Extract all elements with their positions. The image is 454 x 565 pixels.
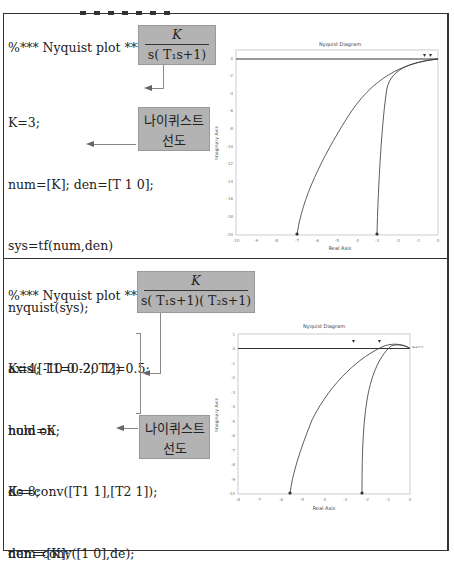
- svg-text:-10: -10: [226, 144, 233, 149]
- svg-text:-7: -7: [295, 238, 299, 243]
- svg-text:Imaginary Axis: Imaginary Axis: [214, 126, 219, 160]
- svg-text:-1: -1: [231, 361, 235, 366]
- section1-comment: %*** Nyquist plot ***: [8, 38, 143, 59]
- formula-numerator: K: [139, 26, 215, 44]
- section2-nyquist-label: 나이퀴스트 선도: [139, 415, 210, 459]
- nyquist-plot-1: Nyquist Diagram 0-2-4-6-8-10-12-14-16-18…: [212, 38, 442, 262]
- formula-denominator: s( T₁s+1): [139, 45, 215, 65]
- svg-text:-4: -4: [322, 497, 326, 502]
- code-line: de=conv([T1 1],[T2 1]);: [8, 482, 209, 503]
- arrow-left-icon: [144, 85, 152, 91]
- arrow-line: [92, 144, 136, 145]
- svg-text:-4: -4: [355, 238, 359, 243]
- svg-text:0: 0: [409, 497, 412, 502]
- svg-text:-1: -1: [416, 238, 420, 243]
- svg-text:-4: -4: [229, 91, 233, 96]
- bracket-tick: [136, 333, 141, 334]
- label-line: 나이퀴스트: [139, 111, 209, 131]
- formula-denominator: s( T₁s+1)( T₂s+1): [138, 291, 254, 311]
- svg-text:-5: -5: [300, 497, 304, 502]
- svg-text:-9: -9: [231, 477, 235, 482]
- svg-text:-14: -14: [226, 179, 233, 184]
- svg-text:-6: -6: [229, 108, 233, 113]
- arrow-line: [150, 88, 164, 89]
- arrow-line: [122, 428, 138, 429]
- svg-text:-8: -8: [231, 462, 235, 467]
- header-marks: [80, 0, 210, 6]
- svg-text:Imaginary Axis: Imaginary Axis: [214, 398, 219, 432]
- formula-numerator: K: [138, 272, 254, 290]
- section1-nyquist-label: 나이퀴스트 선도: [138, 107, 210, 151]
- bracket-tick: [136, 413, 141, 414]
- svg-text:-3: -3: [375, 238, 379, 243]
- svg-text:-6: -6: [231, 433, 235, 438]
- arrow-left-icon: [116, 425, 124, 431]
- svg-text:Nyquist Diagram: Nyquist Diagram: [303, 323, 345, 330]
- svg-text:-12: -12: [226, 161, 233, 166]
- svg-text:-4: -4: [231, 404, 235, 409]
- code-line: sys=tf(num,den): [8, 236, 154, 257]
- svg-text:-18: -18: [226, 214, 233, 219]
- svg-text:-10: -10: [228, 491, 235, 496]
- svg-text:1: 1: [232, 332, 235, 337]
- svg-text:-7: -7: [257, 497, 261, 502]
- section1-transfer-function: K s( T₁s+1): [138, 25, 216, 65]
- arrow-left-icon: [142, 370, 150, 376]
- svg-text:-3: -3: [231, 390, 235, 395]
- svg-text:Real Axis: Real Axis: [329, 245, 352, 251]
- svg-text:-2: -2: [396, 238, 400, 243]
- svg-text:-8: -8: [236, 497, 240, 502]
- plot1-title: Nyquist Diagram: [319, 41, 361, 48]
- svg-text:Real Axis: Real Axis: [313, 505, 336, 511]
- formula-connector-line: [163, 65, 164, 88]
- svg-text:0: 0: [437, 238, 440, 243]
- svg-text:-9: -9: [254, 238, 258, 243]
- label-line: 나이퀴스트: [140, 419, 209, 439]
- label-line: 선도: [139, 131, 209, 151]
- svg-text:0: 0: [232, 346, 235, 351]
- svg-text:-5: -5: [335, 238, 339, 243]
- svg-text:-2: -2: [365, 497, 369, 502]
- svg-text:-10: -10: [233, 238, 240, 243]
- formula-connector-line: [160, 313, 161, 373]
- svg-text:-2: -2: [229, 73, 233, 78]
- svg-text:-1: -1: [386, 497, 390, 502]
- svg-text:-6: -6: [315, 238, 319, 243]
- svg-text:-3: -3: [343, 497, 347, 502]
- arrow-left-icon: [86, 141, 94, 147]
- code-line: K=4; T1=0.2; T2=0.5;: [8, 359, 209, 380]
- svg-text:-20: -20: [226, 232, 233, 237]
- bracket-line: [140, 333, 141, 413]
- svg-text:ω=+∞: ω=+∞: [412, 345, 424, 349]
- nyquist-plot-2: Nyquist Diagram 10-1-2-3-4-5-6-7-8-9-10 …: [212, 320, 442, 544]
- svg-text:-6: -6: [279, 497, 283, 502]
- label-line: 선도: [140, 439, 209, 459]
- svg-text:-8: -8: [274, 238, 278, 243]
- section2-comment: %*** Nyquist plot ***: [8, 286, 143, 307]
- svg-text:-8: -8: [229, 126, 233, 131]
- section2-transfer-function: K s( T₁s+1)( T₂s+1): [137, 271, 255, 313]
- code-line: num=[K]; den=[T 1 0];: [8, 175, 154, 196]
- svg-text:-2: -2: [231, 375, 235, 380]
- svg-text:0: 0: [230, 56, 233, 61]
- code-line: K=3;: [8, 113, 154, 134]
- code-line: den=conv([1 0],de);: [8, 544, 209, 565]
- svg-text:-5: -5: [231, 419, 235, 424]
- svg-text:-7: -7: [231, 448, 235, 453]
- svg-text:-16: -16: [226, 196, 233, 201]
